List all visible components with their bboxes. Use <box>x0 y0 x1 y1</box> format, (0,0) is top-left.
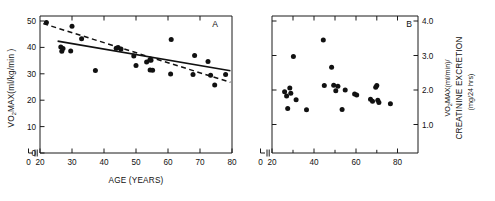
panel-a-ytick-label-30: 30 <box>27 70 37 79</box>
panel-b-point <box>287 86 292 91</box>
panel-b-point <box>321 38 326 43</box>
panel-b-xtick-label-0: 0 <box>258 158 263 167</box>
panel-a-point <box>212 83 217 88</box>
panel-a-point <box>150 68 155 73</box>
panel-b-xtick-label-80: 80 <box>393 158 403 167</box>
panel-b-point <box>374 83 379 88</box>
panel-a-xtick-label-80: 80 <box>227 158 237 167</box>
panel-a-point <box>44 20 49 25</box>
figure-background <box>0 0 495 201</box>
panel-a-xtick-label-50: 50 <box>131 158 141 167</box>
panel-b-ylabel-line1-main: VO <box>443 106 452 117</box>
panel-a-point <box>68 48 73 53</box>
panel-b-point <box>331 83 336 88</box>
panel-b-point <box>291 54 296 59</box>
panel-b-ylabel-line1-rest: MAX(ml/min)/ <box>443 59 452 103</box>
panel-a-xtick-label-20: 20 <box>35 158 45 167</box>
panel-a-ylabel-rest: MAX(ml/kg/min ) <box>7 48 16 112</box>
panel-b-ytick-label-3: 3.0 <box>422 52 434 61</box>
panel-a-point <box>223 72 228 77</box>
panel-a-ytick-label-50: 50 <box>27 17 37 26</box>
panel-b-point <box>388 101 393 106</box>
panel-b-point <box>376 100 381 105</box>
panel-a-point <box>192 53 197 58</box>
svg-text:VO2MAX(ml/kg/min ): VO2MAX(ml/kg/min ) <box>7 48 17 127</box>
panel-b-point <box>335 84 340 89</box>
panel-a-xlabel: AGE (YEARS) <box>109 176 164 185</box>
panel-a-xtick-label-40: 40 <box>99 158 109 167</box>
panel-b-point <box>343 88 348 93</box>
panel-a-point <box>70 24 75 29</box>
panel-a-ytick-label-10: 10 <box>27 123 37 132</box>
panel-a-point <box>149 58 154 63</box>
panel-a-point <box>134 63 139 68</box>
panel-b-ytick-label-1: 1.0 <box>422 121 434 130</box>
panel-a-xtick-label-30: 30 <box>67 158 77 167</box>
scientific-figure: 0 10 20 30 40 50 0 20 <box>0 0 495 201</box>
panel-a-point <box>131 54 136 59</box>
panel-a-ylabel-main: VO <box>7 115 16 127</box>
panel-b-point <box>294 97 299 102</box>
panel-b-point <box>370 99 375 104</box>
panel-a-point <box>79 36 84 41</box>
panel-b-ylabel-line3: (mg/24 hrs) <box>466 74 475 111</box>
panel-b-point <box>304 107 309 112</box>
panel-b-point <box>329 65 334 70</box>
panel-a-xtick-label-70: 70 <box>195 158 205 167</box>
panel-a-point <box>93 68 98 73</box>
panel-a-label: A <box>212 19 218 29</box>
panel-b-point <box>284 93 289 98</box>
panel-a-point <box>169 37 174 42</box>
panel-b-point <box>288 91 293 96</box>
panel-b-point <box>340 107 345 112</box>
panel-b-point <box>322 83 327 88</box>
panel-a-point <box>208 73 213 78</box>
panel-a-ytick-label-40: 40 <box>27 43 37 52</box>
panel-b-xtick-label-60: 60 <box>351 158 361 167</box>
panel-b-ylabel-line2: CREATININE EXCRETION <box>455 36 464 139</box>
panel-a-xtick-label-60: 60 <box>163 158 173 167</box>
panel-a-point <box>206 59 211 64</box>
figure-container: 0 10 20 30 40 50 0 20 <box>0 0 495 201</box>
panel-a-ylabel: VO2MAX(ml/kg/min ) <box>7 48 17 127</box>
panel-a-point <box>61 46 66 51</box>
panel-b-point <box>285 106 290 111</box>
panel-a-point <box>191 72 196 77</box>
panel-b-point <box>354 93 359 98</box>
panel-a-ytick-label-20: 20 <box>27 96 37 105</box>
panel-a-point <box>119 47 124 52</box>
panel-b-ytick-label-2: 2.0 <box>422 86 434 95</box>
panel-b-xtick-label-20: 20 <box>267 158 277 167</box>
panel-b-ytick-label-4: 4.0 <box>422 17 434 26</box>
panel-b-point <box>333 88 338 93</box>
svg-text:VO2MAX(ml/min)/: VO2MAX(ml/min)/ <box>443 59 453 116</box>
panel-a-xtick-label-0: 0 <box>26 158 31 167</box>
panel-a-ytick-label-0: 0 <box>31 149 36 158</box>
panel-b-label: B <box>406 19 412 29</box>
panel-b-xtick-label-40: 40 <box>309 158 319 167</box>
panel-a-point <box>168 71 173 76</box>
